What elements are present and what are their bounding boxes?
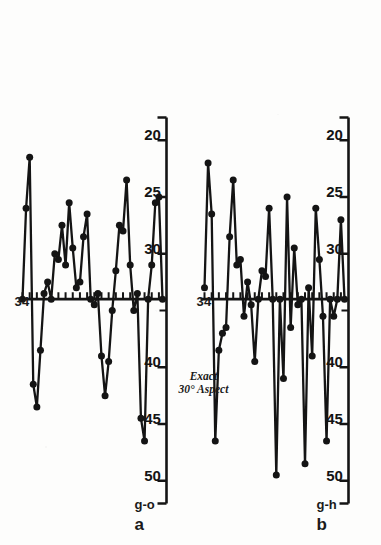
figure-root: 504540302520 34 a g-o 504540302520 34 b … <box>0 0 381 545</box>
data-point-marker <box>58 221 65 228</box>
data-point-marker <box>141 437 148 444</box>
data-point-marker <box>112 267 119 274</box>
data-point-marker <box>240 312 247 319</box>
data-point-marker <box>312 204 319 211</box>
data-point-marker <box>279 375 286 382</box>
data-point-marker <box>290 244 297 251</box>
data-point-marker <box>97 352 104 359</box>
data-point-marker <box>130 307 137 314</box>
data-point-marker <box>226 233 233 240</box>
data-point-marker <box>83 210 90 217</box>
data-point-marker <box>101 392 108 399</box>
data-point-marker <box>315 255 322 262</box>
data-point-marker <box>208 210 215 217</box>
data-point-marker <box>47 295 54 302</box>
data-point-marker <box>204 159 211 166</box>
data-point-marker <box>80 233 87 240</box>
annotation-line-2: 30° Aspect <box>178 382 228 395</box>
data-point-marker <box>222 324 229 331</box>
annotation-line-1: Exact <box>178 369 228 382</box>
data-point-marker <box>133 289 140 296</box>
rotated-figure-stage: 504540302520 34 a g-o 504540302520 34 b … <box>0 0 381 545</box>
data-point-marker <box>36 346 43 353</box>
axis-tick-label: 20 <box>144 126 161 143</box>
data-point-marker <box>283 193 290 200</box>
data-point-marker <box>26 153 33 160</box>
data-point-marker <box>305 284 312 291</box>
reference-axis-label-b: 34 <box>196 294 211 307</box>
panel-label-a: a <box>134 515 143 532</box>
data-point-marker <box>337 216 344 223</box>
axis-tick-label: 20 <box>326 126 343 143</box>
exact-aspect-annotation: Exact 30° Aspect <box>178 369 228 395</box>
panel-label-b: b <box>316 515 326 532</box>
data-point-marker <box>69 244 76 251</box>
data-point-marker <box>44 278 51 285</box>
data-point-marker <box>62 261 69 268</box>
data-point-marker <box>308 352 315 359</box>
data-point-marker <box>247 301 254 308</box>
data-point-marker <box>29 380 36 387</box>
data-point-marker <box>115 221 122 228</box>
data-point-marker <box>251 358 258 365</box>
data-point-marker <box>211 437 218 444</box>
data-point-marker <box>215 346 222 353</box>
data-point-marker <box>244 278 251 285</box>
axis-tick-label: 50 <box>144 466 161 483</box>
data-point-marker <box>65 199 72 206</box>
chart-panel-b: 504540302520 34 b g-h <box>196 91 381 521</box>
axis-tick-label: 25 <box>326 182 343 199</box>
data-point-marker <box>301 460 308 467</box>
panel-container: 504540302520 34 a g-o 504540302520 34 b … <box>0 0 381 545</box>
chart-plot-a: 504540302520 <box>14 91 184 521</box>
data-point-marker <box>148 261 155 268</box>
data-point-marker <box>137 414 144 421</box>
data-point-marker <box>126 261 133 268</box>
reference-axis-label-a: 34 <box>14 294 29 307</box>
data-point-marker <box>201 284 208 291</box>
panel-sublabel-b: g-h <box>316 497 336 510</box>
axis-tick-label: 50 <box>326 466 343 483</box>
data-point-marker <box>51 250 58 257</box>
data-point-marker <box>265 204 272 211</box>
data-point-marker <box>319 312 326 319</box>
data-point-marker <box>258 267 265 274</box>
data-point-marker <box>229 176 236 183</box>
data-point-marker <box>272 471 279 478</box>
data-point-marker <box>123 176 130 183</box>
data-point-marker <box>33 403 40 410</box>
data-point-marker <box>108 307 115 314</box>
data-point-marker <box>105 358 112 365</box>
chart-plot-b: 504540302520 <box>196 91 366 521</box>
panel-sublabel-a: g-o <box>134 497 154 510</box>
data-point-marker <box>323 437 330 444</box>
data-point-marker <box>22 204 29 211</box>
data-point-marker <box>287 324 294 331</box>
